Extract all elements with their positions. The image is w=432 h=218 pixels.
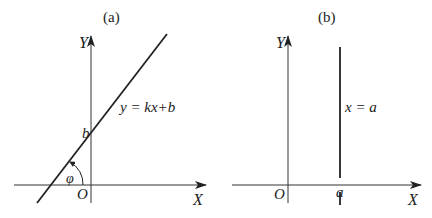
y-axis-label: Y xyxy=(276,34,287,51)
panel-a-caption: (a) xyxy=(103,9,120,26)
origin-label: O xyxy=(77,186,88,202)
x-axis-label: X xyxy=(407,191,419,208)
y-axis-label: Y xyxy=(79,34,90,51)
panel-b: (b) Y X O a x = a xyxy=(232,9,421,208)
panel-b-caption: (b) xyxy=(318,9,336,26)
panel-a: (a) Y X O b φ y = kx+b xyxy=(14,9,206,208)
angle-label: φ xyxy=(66,171,74,186)
sloped-line xyxy=(37,34,167,203)
equation-label: x = a xyxy=(344,99,377,115)
point-a-label: a xyxy=(336,184,344,200)
equation-label: y = kx+b xyxy=(118,99,176,115)
line-equations-diagram: (a) Y X O b φ y = kx+b (b) Y X O a x = a xyxy=(0,0,432,218)
x-axis-label: X xyxy=(192,191,204,208)
intercept-label: b xyxy=(82,125,90,141)
origin-label: O xyxy=(274,186,285,202)
